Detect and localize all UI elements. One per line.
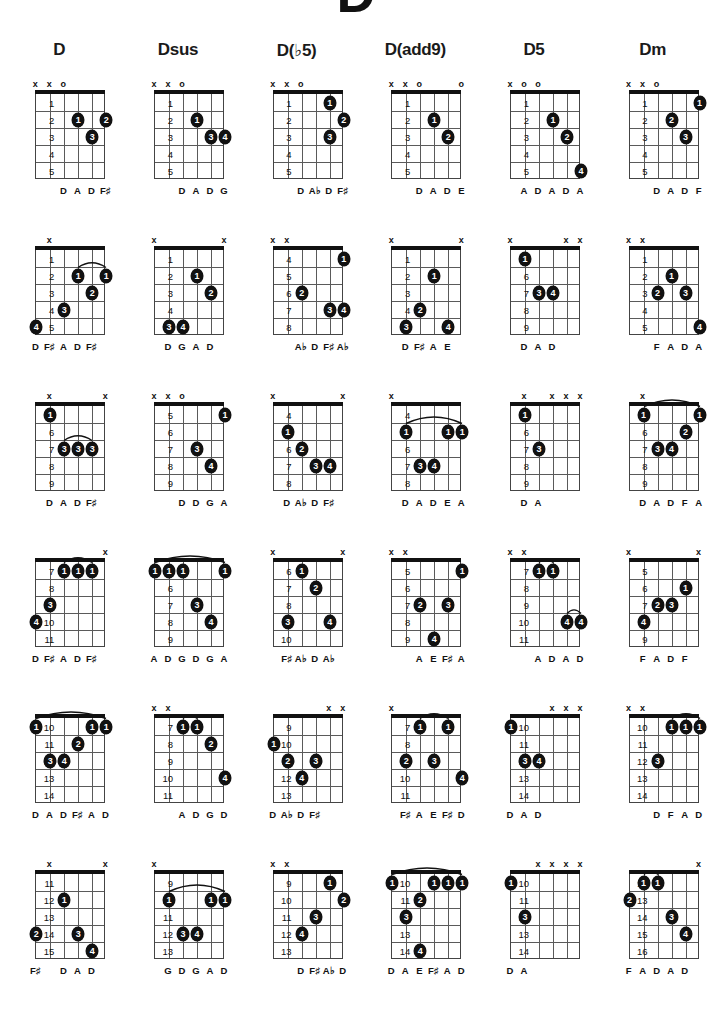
muted-string-icon: x bbox=[535, 858, 540, 870]
chord-diagram-Dm-r6c6[interactable]: x112341213141516FADAD bbox=[593, 858, 712, 1014]
note-name: D bbox=[32, 807, 39, 823]
chord-diagram-Dm-r4c6[interactable]: xx123456789FADF bbox=[593, 546, 712, 702]
chord-diagram-Dsus-r4c2[interactable]: 11113456789ADGDGA bbox=[119, 546, 238, 702]
chord-diagram-D-r5c1[interactable]: 1112341011121314DADF♯AD bbox=[0, 702, 119, 858]
finger-dot: 3 bbox=[679, 285, 692, 300]
finger-dot: 3 bbox=[72, 926, 85, 941]
chord-diagram-D5-r4c3[interactable]: xx1234678910F♯A♭DA♭ bbox=[237, 546, 356, 702]
chord-diagram-D5-r5c3[interactable]: xx1234910111213DA♭DF♯ bbox=[237, 702, 356, 858]
diagram: xxo12312345DA♭DF♯ bbox=[249, 78, 345, 199]
finger-dot: 4 bbox=[574, 163, 587, 178]
chord-diagram-Dsus-r3c2[interactable]: xxo13456789DDGA bbox=[119, 390, 238, 546]
note-name: F♯ bbox=[309, 807, 320, 823]
chord-diagram-Dsus-r2c2[interactable]: xx123412345DGAD bbox=[119, 234, 238, 390]
note-name: A bbox=[221, 651, 228, 667]
fret-number: 12 bbox=[162, 928, 173, 939]
fret-number: 7 bbox=[49, 565, 54, 576]
chord-diagram-D5-r6c3[interactable]: xx1234910111213DF♯A♭D bbox=[237, 858, 356, 1014]
chord-diagram-Dm-r1c6[interactable]: xxo12312345DADF bbox=[593, 78, 712, 234]
note-name: D bbox=[402, 339, 409, 355]
chord-diagram-Dm-r5c6[interactable]: xx11131011121314DFAD bbox=[593, 702, 712, 858]
chord-diagram-D5-r1c5[interactable]: xoo12412345ADADA bbox=[475, 78, 594, 234]
muted-string-icon: x bbox=[403, 546, 408, 558]
finger-dot: 4 bbox=[204, 614, 217, 629]
string-line bbox=[553, 406, 554, 490]
chord-diagram-Dsus-r1c2[interactable]: xxo13412345DADG bbox=[119, 78, 238, 234]
chord-diagram-Dsus-r5c2[interactable]: xx11247891011ADGD bbox=[119, 702, 238, 858]
chord-diagram-D-r6c1[interactable]: xx12341112131415F♯DAD bbox=[0, 858, 119, 1014]
muted-string-icon: x bbox=[389, 390, 394, 402]
note-name: D bbox=[297, 963, 304, 979]
fretboard: 123412345 bbox=[391, 246, 461, 335]
finger-dot: 1 bbox=[442, 424, 455, 439]
chord-diagram-D-r1c1[interactable]: xxo12312345DADF♯ bbox=[0, 78, 119, 234]
muted-string-icon: x bbox=[103, 390, 108, 402]
open-string-icon: o bbox=[535, 78, 541, 90]
note-name: E bbox=[430, 807, 436, 823]
fret-number: 6 bbox=[286, 565, 291, 576]
diagram: xxx13456789DAD bbox=[486, 234, 582, 355]
diagram: x1123412345DF♯ADF♯ bbox=[11, 234, 107, 355]
fret-number: 2 bbox=[642, 114, 647, 125]
note-name: F♯ bbox=[442, 651, 453, 667]
finger-dot: 4 bbox=[204, 458, 217, 473]
fret-number: 2 bbox=[405, 270, 410, 281]
fret-numbers: 45678 bbox=[271, 250, 295, 335]
finger-dot: 1 bbox=[323, 95, 336, 110]
chord-diagram-Dsus-r6c2[interactable]: x11134910111213GDGAD bbox=[119, 858, 238, 1014]
fret-number: 4 bbox=[642, 304, 647, 315]
chord-diagram-D5-r2c5[interactable]: xxx13456789DAD bbox=[475, 234, 594, 390]
note-name: A bbox=[430, 183, 437, 199]
chord-diagram-D-r4c1[interactable]: x111347891011DF♯ADF♯ bbox=[0, 546, 119, 702]
chord-diagram-D5-r5c5[interactable]: xxx1341011121314DAD bbox=[475, 702, 594, 858]
chord-diagram-Dadd9-r6c4[interactable]: 11112341011121314DAEF♯AD bbox=[356, 858, 475, 1014]
finger-dot: 2 bbox=[337, 892, 350, 907]
chord-diagram-D-r2c1[interactable]: x1123412345DF♯ADF♯ bbox=[0, 234, 119, 390]
note-name: A♭ bbox=[295, 339, 307, 355]
chord-diagram-Dadd9-r5c4[interactable]: x112347891011F♯AEF♯D bbox=[356, 702, 475, 858]
chord-diagram-Dadd9-r4c4[interactable]: xx123456789AEF♯A bbox=[356, 546, 475, 702]
muted-string-icon: x bbox=[389, 546, 394, 558]
chord-diagram-D-r3c1[interactable]: xx133356789DADF♯ bbox=[0, 390, 119, 546]
chord-diagram-Dadd9-r1c4[interactable]: xxoo1212345DADE bbox=[356, 78, 475, 234]
fret-numbers: 56789 bbox=[627, 562, 651, 647]
note-name: F♯ bbox=[414, 339, 425, 355]
chord-diagram-D5-r4c5[interactable]: xx11447891011ADAD bbox=[475, 546, 594, 702]
chord-diagram-Dadd9-r2c4[interactable]: xx123412345DF♯AE bbox=[356, 234, 475, 390]
finger-dot: 1 bbox=[218, 892, 231, 907]
fret-number: 5 bbox=[49, 165, 54, 176]
note-names: DA bbox=[510, 963, 580, 979]
finger-dot: 3 bbox=[428, 753, 441, 768]
chord-diagram-Dm-r3c6[interactable]: x1123456789DADFA bbox=[593, 390, 712, 546]
chord-diagram-Dm-r2c6[interactable]: xx123412345FADA bbox=[593, 234, 712, 390]
fretboard: 13456789 bbox=[510, 246, 580, 335]
note-names: DA♭DF♯ bbox=[273, 807, 343, 823]
note-name: A bbox=[179, 807, 186, 823]
chord-diagram-Dadd9-r3c4[interactable]: x1113445678DADEA bbox=[356, 390, 475, 546]
finger-dot: 1 bbox=[72, 112, 85, 127]
note-name: A bbox=[416, 495, 423, 511]
fret-number: 9 bbox=[524, 599, 529, 610]
string-line bbox=[316, 250, 317, 334]
fret-number: 11 bbox=[44, 738, 54, 749]
chord-diagram-D5-r6c5[interactable]: xxxx131011121314DA bbox=[475, 858, 594, 1014]
fretboard: 13412345 bbox=[154, 90, 224, 179]
chord-diagram-D5-r3c5[interactable]: xxxx1356789DA bbox=[475, 390, 594, 546]
note-names: DADF♯AD bbox=[35, 807, 105, 823]
note-names: FADA bbox=[629, 339, 699, 355]
chord-diagram-D5-r1c3[interactable]: xxo12312345DA♭DF♯ bbox=[237, 78, 356, 234]
fret-number: 5 bbox=[524, 165, 529, 176]
fret-number: 5 bbox=[286, 165, 291, 176]
fretboard: 1212345 bbox=[391, 90, 461, 179]
fretboard: 123412345 bbox=[629, 246, 699, 335]
note-name: A bbox=[695, 495, 702, 511]
chord-diagram-D5-r3c3[interactable]: xx123445678DA♭DF♯ bbox=[237, 390, 356, 546]
finger-dot: 3 bbox=[58, 441, 71, 456]
note-names: DF♯AE bbox=[391, 339, 461, 355]
chord-diagram-D5-r2c3[interactable]: xx123445678A♭DF♯A♭ bbox=[237, 234, 356, 390]
string-line bbox=[197, 874, 198, 958]
finger-dot: 2 bbox=[309, 580, 322, 595]
note-names: F♯DAD bbox=[35, 963, 105, 979]
note-name: A bbox=[521, 183, 528, 199]
note-name: D bbox=[695, 807, 702, 823]
